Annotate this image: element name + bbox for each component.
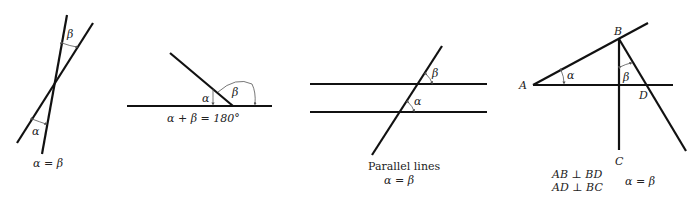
line-2 [17, 23, 93, 143]
beta-arc [62, 43, 77, 47]
angle-relations-diagram: β α α = β α β α + β = 180° β α Parallel … [0, 0, 694, 209]
alpha-label: α [567, 69, 575, 82]
beta-arc [620, 63, 631, 67]
point-C-label: C [615, 155, 624, 168]
beta-label: β [231, 86, 238, 99]
point-A-label: A [518, 79, 527, 92]
figure-perpendicular-sides: A B C D α β AB ⊥ BD AD ⊥ BC α = β [518, 23, 686, 194]
point-D-label: D [638, 89, 648, 102]
alpha-label: α [32, 125, 40, 138]
caption-right: α = β [625, 175, 655, 188]
alpha-arc [32, 119, 46, 124]
caption-line-1: AB ⊥ BD [551, 168, 602, 181]
alpha-label: α [414, 95, 422, 108]
alpha-arc [561, 70, 564, 83]
point-B-label: B [613, 25, 622, 38]
line-BD [619, 39, 686, 151]
figure-vertical-angles: β α α = β [17, 15, 93, 170]
figure-parallel-lines: β α Parallel lines α = β [310, 46, 487, 187]
beta-label: β [66, 28, 73, 41]
caption-line-2: AD ⊥ BC [551, 181, 603, 194]
caption-line-2: α = β [384, 174, 414, 187]
caption: α = β [33, 157, 63, 170]
beta-label: β [622, 71, 629, 84]
figure-supplementary-angles: α β α + β = 180° [127, 53, 272, 125]
line-AB [533, 23, 648, 85]
beta-label: β [431, 67, 438, 80]
alpha-label: α [202, 92, 210, 105]
transversal [372, 46, 442, 155]
caption-line-1: Parallel lines [368, 160, 440, 173]
caption: α + β = 180° [167, 112, 240, 125]
